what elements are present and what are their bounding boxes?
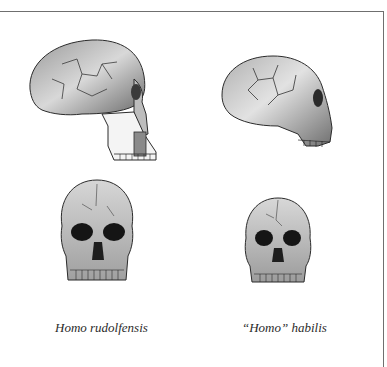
caption-homo-habilis: “Homo” habilis xyxy=(242,320,327,336)
skull-rudolfensis-frontal xyxy=(52,176,142,286)
figure-frame-right xyxy=(383,11,384,367)
skull-habilis-lateral xyxy=(218,50,338,155)
skull-rudolfensis-lateral xyxy=(22,34,162,164)
caption-homo-rudolfensis: Homo rudolfensis xyxy=(55,320,148,336)
skull-habilis-frontal xyxy=(238,196,318,286)
figure-frame-top xyxy=(0,11,384,12)
